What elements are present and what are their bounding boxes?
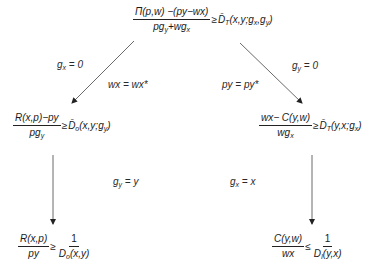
top-denominator: pgy+wgx [151,20,192,33]
left-condition-label: gx = 0 [57,59,83,70]
top-numerator: Π(p,w) −(py−wx) [133,6,210,20]
top-fraction: Π(p,w) −(py−wx) pgy+wgx [133,6,210,33]
arrow-top-to-left [72,41,134,103]
top-rhs: D̄T(x,y;gx,gy) [218,14,273,25]
left-second-condition: gy = y [113,176,138,187]
right-second-condition: gx = x [230,176,255,187]
left-mid-formula: R(x,p)−py pgy ≥ D̄o(x,y;gy) [13,112,111,139]
right-mid-formula: wx− C(y,w) wgx ≥ D̄T(y,x;gx) [259,112,362,139]
left-mid-fraction: R(x,p)−py pgy [13,112,61,139]
right-condition-label: gy = 0 [292,60,318,71]
arrow-top-to-right [240,43,302,103]
top-relation: ≥ [211,14,217,25]
left-result-formula: R(x,p) py ≥ 1 Do(x,y) [18,233,91,260]
top-formula: Π(p,w) −(py−wx) pgy+wgx ≥ D̄T(x,y;gx,gy) [133,6,273,33]
right-result-formula: C(y,w) wx ≤ 1 DI(y,x) [272,233,344,260]
left-price-label: wx = wx* [108,79,148,90]
right-mid-fraction: wx− C(y,w) wgx [259,112,312,139]
right-price-label: py = py* [222,79,258,90]
